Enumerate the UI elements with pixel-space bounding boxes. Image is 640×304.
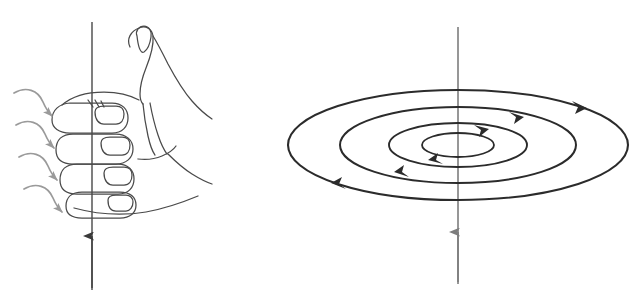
figure-root: Right-hand rule for the magnetic field a… (0, 0, 640, 304)
figure-background (0, 0, 640, 304)
right-hand-rule-figure (0, 0, 640, 304)
